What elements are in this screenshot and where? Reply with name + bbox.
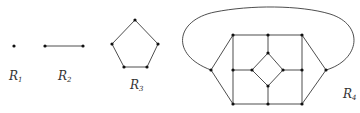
graphs-figure: R1 R2 R3 <box>0 0 360 113</box>
vertex <box>81 44 84 47</box>
diamond <box>252 53 283 86</box>
vertex <box>43 44 46 47</box>
label-r2: R2 <box>57 69 72 84</box>
graph-r3: R3 <box>110 18 159 93</box>
vertex <box>12 44 15 47</box>
label-r1: R1 <box>8 69 23 84</box>
graph-r1: R1 <box>8 44 23 84</box>
graph-r2: R2 <box>43 44 84 84</box>
graph-r4: R4 <box>183 7 357 106</box>
pentagon <box>112 20 158 67</box>
label-r4: R4 <box>342 87 357 102</box>
square <box>233 35 302 104</box>
label-r3: R3 <box>129 78 144 93</box>
